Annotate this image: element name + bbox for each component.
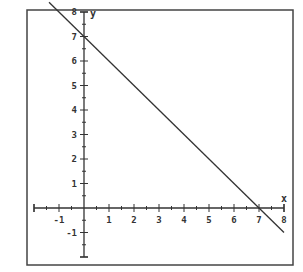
x-tick-label: -1 bbox=[54, 215, 65, 225]
y-tick-label: 3 bbox=[72, 130, 77, 140]
x-tick-label: 8 bbox=[281, 215, 286, 225]
x-tick-label: 1 bbox=[106, 215, 111, 225]
x-tick-label: 3 bbox=[156, 215, 161, 225]
y-tick-label: 2 bbox=[72, 154, 77, 164]
x-tick-label: 5 bbox=[206, 215, 211, 225]
coordinate-plot: -112345678-112345678 x y bbox=[0, 0, 303, 272]
x-tick-label: 4 bbox=[181, 215, 187, 225]
y-tick-label: 4 bbox=[72, 105, 78, 115]
y-tick-label: 1 bbox=[72, 179, 77, 189]
x-axis-label: x bbox=[281, 193, 287, 204]
y-tick-label: 6 bbox=[72, 56, 77, 66]
x-tick-label: 2 bbox=[131, 215, 136, 225]
y-tick-label: 8 bbox=[72, 7, 77, 17]
y-tick-label: 7 bbox=[72, 32, 77, 42]
x-tick-label: 6 bbox=[231, 215, 236, 225]
y-tick-label: 5 bbox=[72, 81, 77, 91]
y-tick-label: -1 bbox=[66, 228, 77, 238]
y-axis-label: y bbox=[90, 8, 96, 19]
x-tick-label: 7 bbox=[256, 215, 261, 225]
